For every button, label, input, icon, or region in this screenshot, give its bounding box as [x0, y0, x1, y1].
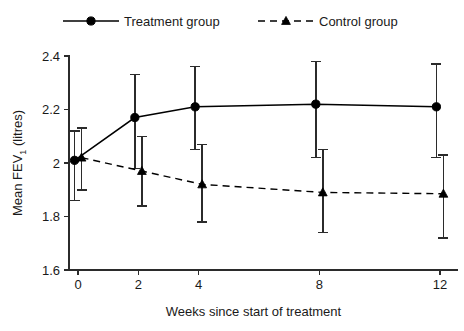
x-axis-title: Weeks since start of treatment	[166, 304, 342, 319]
legend-label: Control group	[319, 14, 398, 29]
error-bars-control	[77, 128, 449, 238]
data-point-circle[interactable]	[432, 103, 440, 111]
y-tick-label: 2.4	[42, 49, 60, 64]
markers-treatment	[70, 100, 440, 164]
fev1-line-chart: Treatment groupControl group 1.61.822.22…	[0, 0, 464, 331]
error-bars-treatment	[70, 61, 442, 200]
x-tick-label: 12	[433, 277, 447, 292]
legend-item-control[interactable]: Control group	[258, 14, 398, 29]
markers-control	[77, 153, 448, 197]
axis-frame	[69, 55, 458, 270]
series-line-control	[82, 158, 444, 194]
data-point-circle[interactable]	[131, 113, 139, 121]
legend-item-treatment[interactable]: Treatment group	[63, 14, 220, 29]
data-point-circle[interactable]	[312, 100, 320, 108]
y-axis-title: Mean FEV1 (litres)	[10, 110, 28, 216]
chart-axes: 1.61.822.22.4024812	[42, 49, 458, 293]
y-tick-label: 2.2	[42, 102, 60, 117]
data-point-circle[interactable]	[191, 103, 199, 111]
chart-figure: Treatment groupControl group 1.61.822.22…	[0, 0, 464, 331]
legend-label: Treatment group	[124, 14, 220, 29]
y-axis-title-tail: (litres)	[10, 110, 25, 150]
x-tick-label: 0	[74, 277, 81, 292]
series-line-treatment	[75, 104, 437, 160]
y-tick-label: 2	[53, 156, 60, 171]
legend-marker-circle	[87, 17, 95, 25]
y-tick-label: 1.6	[42, 263, 60, 278]
x-tick-label: 2	[135, 277, 142, 292]
chart-series	[70, 61, 449, 238]
x-tick-label: 4	[195, 277, 202, 292]
y-axis-title-main: Mean FEV	[10, 154, 25, 216]
chart-legend: Treatment groupControl group	[63, 14, 398, 29]
x-tick-label: 8	[316, 277, 323, 292]
y-tick-label: 1.8	[42, 209, 60, 224]
